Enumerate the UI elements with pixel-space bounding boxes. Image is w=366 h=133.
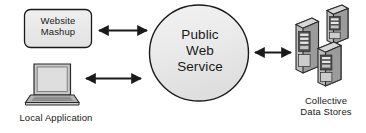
laptop-base bbox=[26, 103, 80, 106]
server-stack-icon[interactable] bbox=[296, 5, 348, 86]
laptop-keys bbox=[31, 97, 73, 101]
server-tower-top-right bbox=[327, 5, 348, 44]
collective-data-stores-label: Collective Data Stores bbox=[288, 95, 364, 117]
local-application-label: Local Application bbox=[4, 112, 108, 123]
laptop-icon[interactable] bbox=[26, 64, 80, 105]
public-web-service-label: Public Web Service bbox=[155, 27, 245, 75]
architecture-diagram: Website Mashup Public Web Service Local … bbox=[0, 0, 366, 133]
website-mashup-label: Website Mashup bbox=[24, 15, 92, 37]
server-tower-left bbox=[296, 18, 319, 73]
laptop-screen bbox=[37, 67, 67, 92]
server-tower-front bbox=[318, 42, 341, 86]
